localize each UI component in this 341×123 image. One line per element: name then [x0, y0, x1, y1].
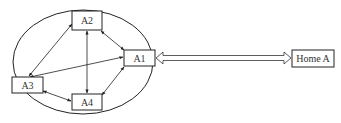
node-label: A2: [81, 15, 93, 26]
node-a4: A4: [72, 94, 102, 110]
edge-a4-a1: [102, 67, 124, 95]
diagram-canvas: A2 A1 A3 A4 Home A: [0, 0, 341, 123]
node-a3: A3: [12, 77, 43, 93]
node-label: A3: [21, 80, 33, 91]
edge-a1-homea: [156, 52, 291, 64]
node-home-a: Home A: [292, 50, 334, 67]
edge-a2-a3: [29, 24, 72, 76]
node-label: A4: [81, 97, 93, 108]
node-label: Home A: [296, 53, 330, 64]
edge-a3-a4: [43, 91, 71, 101]
node-label: A1: [133, 53, 145, 64]
edge-a3-a1: [30, 57, 123, 77]
node-a1: A1: [124, 50, 155, 66]
edge-a2-a1: [101, 31, 124, 50]
node-a2: A2: [72, 11, 102, 30]
